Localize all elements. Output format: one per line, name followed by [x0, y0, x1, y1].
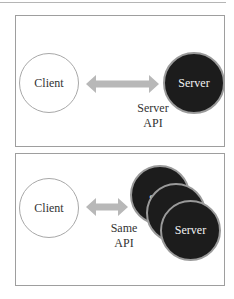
client-label: Client	[34, 201, 63, 216]
server-node-front: Server	[160, 200, 221, 261]
server-label: Server	[178, 76, 209, 91]
server-label: Server	[175, 223, 206, 238]
top-divider-line	[0, 2, 226, 3]
api-label-line1: Server	[128, 101, 178, 116]
client-label: Client	[34, 76, 63, 91]
api-label-line2: API	[128, 116, 178, 131]
bidirectional-arrow-icon	[86, 74, 159, 94]
api-label-line1: Same	[99, 221, 149, 236]
client-node: Client	[19, 178, 79, 238]
client-node: Client	[19, 53, 79, 113]
server-api-label: Server API	[128, 101, 178, 131]
same-api-label: Same API	[99, 221, 149, 251]
api-label-line2: API	[99, 236, 149, 251]
bidirectional-arrow-icon	[86, 197, 128, 217]
